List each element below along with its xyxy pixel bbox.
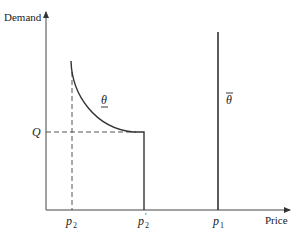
svg-text:2: 2 [73, 221, 77, 230]
tick-p2-prime: p 2 ′ [137, 212, 149, 230]
demand-diagram: Demand Price Q θ θ p 2 p 2 ′ p 1 [0, 0, 302, 249]
svg-text:′: ′ [145, 212, 147, 221]
theta-high-label: θ [226, 93, 233, 107]
svg-text:p: p [212, 214, 219, 228]
svg-text:p: p [65, 214, 72, 228]
svg-text:p: p [137, 214, 144, 228]
y-axis-label: Demand [4, 11, 42, 23]
svg-text:2: 2 [145, 221, 149, 230]
svg-text:1: 1 [220, 221, 224, 230]
theta-low-label: θ [101, 93, 108, 107]
theta-low-curve [71, 61, 144, 210]
svg-text:θ: θ [101, 93, 107, 107]
x-axis-label: Price [265, 214, 288, 226]
tick-p1: p 1 [212, 214, 224, 230]
q-label: Q [32, 125, 41, 139]
svg-text:θ: θ [226, 93, 232, 107]
tick-p2: p 2 [65, 214, 77, 230]
